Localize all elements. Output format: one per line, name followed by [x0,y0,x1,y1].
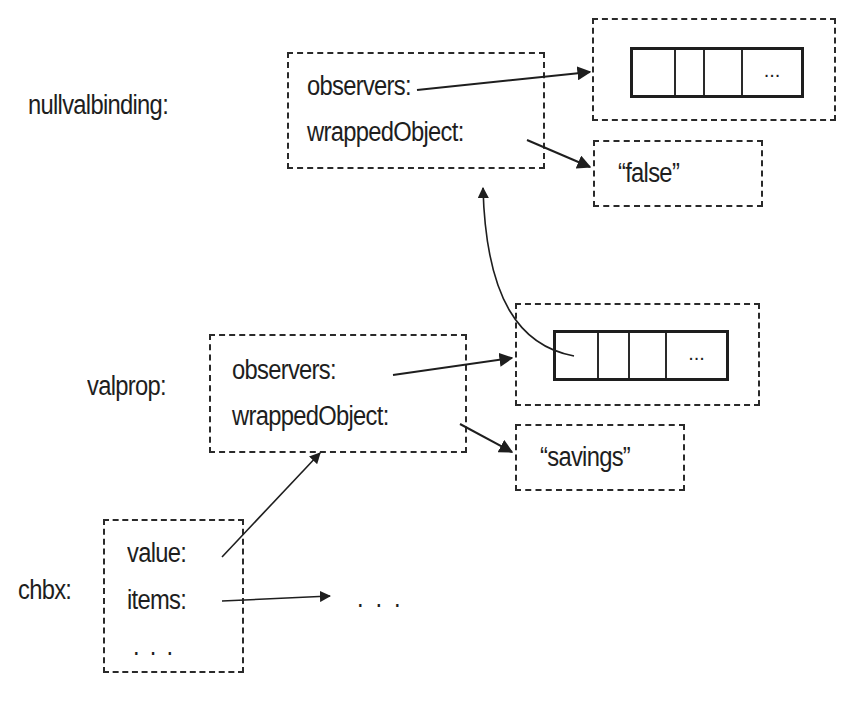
chbx-items-target: . . . [357,585,403,612]
array-cell [599,333,630,378]
array-ellipsis-cell: ... [667,333,726,378]
array-cell [633,50,676,95]
chbx-label: chbx: [18,577,71,604]
valprop-wrappedobject-field: wrappedObject: [232,403,389,430]
valprop-label: valprop: [87,373,166,400]
nullvalbinding-observers-field: observers: [307,73,411,100]
array-cell [556,333,599,378]
chbx-more-fields: . . . [133,633,175,660]
valprop-object-box [209,334,467,453]
chbx-value-field: value: [127,540,186,567]
nullvalbinding-wrappedobject-field: wrappedObject: [307,119,464,146]
savings-value-text: “savings” [540,444,630,471]
nullvalbinding-object-box [287,52,545,169]
nullvalbinding-observers-array: ... [630,47,804,98]
valprop-wrapped-arrow [460,424,512,452]
false-value-text: “false” [618,160,679,187]
array-cell [705,50,743,95]
valprop-observers-field: observers: [232,357,336,384]
object-reference-diagram: nullvalbinding: observers: wrappedObject… [0,0,853,705]
array-cell [676,50,705,95]
valprop-observers-array: ... [553,330,729,381]
array-ellipsis-cell: ... [743,50,801,95]
array-cell [630,333,667,378]
nullvalbinding-label: nullvalbinding: [28,92,168,119]
chbx-items-field: items: [127,587,186,614]
